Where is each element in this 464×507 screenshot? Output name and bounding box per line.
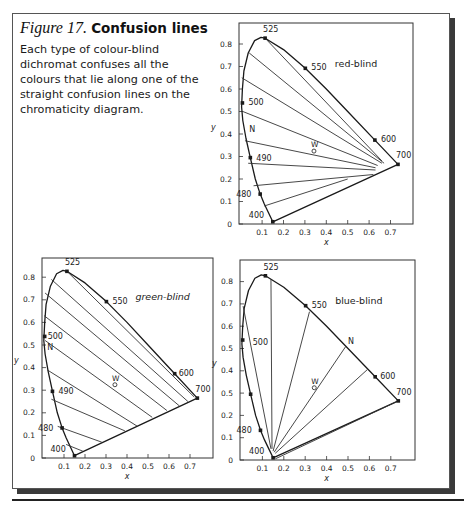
wavelength-label: 400 [249, 447, 264, 456]
x-tick-label: 0.2 [278, 464, 290, 473]
y-tick-label: 0.7 [221, 299, 233, 308]
x-tick-label: 0.1 [256, 464, 268, 473]
x-tick-label: 0.6 [363, 464, 375, 473]
y-tick-label: 0.4 [221, 366, 233, 375]
y-tick-label: 0.5 [221, 344, 233, 353]
wavelength-marker [241, 338, 245, 342]
wavelength-marker [271, 456, 275, 460]
neutral-point-label: N [348, 337, 354, 346]
y-tick-label: 0.5 [221, 389, 233, 398]
y-tick-label: 0.8 [221, 277, 233, 286]
y-axis-label: y [211, 359, 217, 368]
plot-title: blue-blind [335, 295, 382, 306]
x-tick-label: 0.5 [342, 464, 354, 473]
wavelength-marker [373, 375, 377, 379]
x-tick-label: 0.4 [321, 464, 333, 473]
wavelength-marker [304, 304, 308, 308]
wavelength-marker [264, 274, 268, 278]
wavelength-marker [259, 429, 263, 433]
confusion-line [273, 312, 309, 451]
x-axis-label: x [323, 474, 329, 483]
chromaticity-plot-blue-blind: 0.10.20.30.40.50.60.700.10.20.50.40.50.6… [0, 0, 464, 507]
white-point-label: W [311, 377, 319, 386]
y-tick-label: 0 [228, 456, 233, 465]
wavelength-label: 550 [312, 301, 327, 310]
white-point-marker [312, 386, 316, 390]
wavelength-label: 500 [253, 338, 268, 347]
plot-box [240, 260, 415, 460]
confusion-line [275, 401, 398, 459]
x-tick-label: 0.3 [299, 464, 311, 473]
y-tick-label: 0.6 [221, 322, 233, 331]
x-tick-label: 0.7 [385, 464, 397, 473]
wavelength-label: 600 [380, 372, 395, 381]
y-tick-label: 0.2 [221, 411, 233, 420]
confusion-line [271, 279, 272, 448]
wavelength-label: 700 [396, 388, 411, 397]
wavelength-marker [396, 399, 400, 403]
y-tick-label: 0.1 [221, 433, 233, 442]
wavelength-marker [249, 392, 253, 396]
bottom-rule [12, 499, 464, 501]
wavelength-label: 480 [236, 426, 251, 435]
wavelength-label: 525 [263, 263, 278, 272]
